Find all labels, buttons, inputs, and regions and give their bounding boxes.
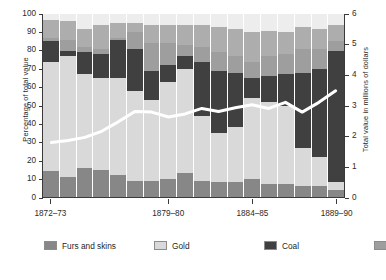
bar-segment: [160, 82, 176, 179]
y-left-tick-label: 30: [16, 138, 36, 146]
bar-segment: [43, 20, 59, 38]
stacked-bars: [43, 14, 344, 197]
bar-segment: [328, 190, 344, 197]
legend-item[interactable]: Furs and skins: [44, 241, 154, 251]
bar-segment: [177, 173, 193, 197]
bar-segment: [295, 14, 311, 27]
legend-label: Coal: [282, 241, 299, 251]
bar-segment: [312, 69, 328, 157]
bar-segment: [177, 69, 193, 173]
bar-segment: [177, 45, 193, 56]
bar-segment: [194, 25, 210, 47]
bar-segment: [144, 100, 160, 181]
y-left-tick-label: 100: [16, 10, 36, 18]
bar-segment: [261, 31, 277, 57]
bar-segment: [228, 14, 244, 29]
bar-segment: [144, 14, 160, 25]
x-tick-mark: [336, 199, 337, 204]
bar-segment: [228, 56, 244, 72]
bar-segment: [160, 179, 176, 197]
y-right-tick-mark: [345, 136, 349, 137]
bar-column: [295, 14, 312, 197]
bar-column: [328, 14, 344, 197]
bar-column: [110, 14, 127, 197]
bar-segment: [110, 78, 126, 175]
legend-item[interactable]: Coal: [264, 241, 374, 251]
bar-segment: [194, 47, 210, 62]
bar-segment: [295, 27, 311, 49]
bar-segment: [328, 41, 344, 50]
bar-segment: [261, 184, 277, 197]
bar-column: [244, 14, 261, 197]
bar-segment: [43, 41, 59, 61]
bar-segment: [110, 14, 126, 23]
y-right-tick-mark: [345, 14, 349, 15]
legend-item[interactable]: Salmon: [374, 241, 386, 251]
legend-swatch-icon: [264, 241, 277, 250]
bar-segment: [60, 21, 76, 39]
bar-segment: [144, 25, 160, 43]
y-left-tick-label: 50: [16, 102, 36, 110]
bar-segment: [93, 170, 109, 197]
bar-segment: [177, 14, 193, 25]
bar-segment: [278, 184, 294, 197]
y-right-tick-label: 1: [352, 163, 372, 171]
y-right-tick-label: 6: [352, 10, 372, 18]
bar-segment: [328, 25, 344, 41]
bar-segment: [60, 56, 76, 177]
y-right-tick-label: 4: [352, 71, 372, 79]
bar-segment: [144, 43, 160, 70]
bar-segment: [60, 40, 76, 51]
y-axis-right-title: Total value in millions of dollars: [361, 30, 370, 170]
bar-segment: [211, 52, 227, 70]
bar-segment: [228, 73, 244, 128]
bar-column: [211, 14, 228, 197]
bar-segment: [244, 78, 260, 98]
legend-swatch-icon: [44, 241, 57, 250]
bar-segment: [244, 62, 260, 78]
bar-segment: [127, 181, 143, 197]
bar-segment: [278, 32, 294, 54]
x-tick-label: 1879–80: [152, 209, 184, 218]
bar-segment: [211, 133, 227, 182]
bar-segment: [110, 40, 126, 78]
y-left-tick-label: 80: [16, 46, 36, 54]
bar-segment: [160, 43, 176, 65]
bar-segment: [160, 14, 176, 25]
bar-column: [194, 14, 211, 197]
bar-segment: [144, 181, 160, 197]
bar-segment: [77, 14, 93, 29]
bar-segment: [312, 49, 328, 69]
bar-segment: [261, 56, 277, 76]
bar-segment: [127, 32, 143, 48]
y-left-tick-label: 70: [16, 65, 36, 73]
bar-column: [93, 14, 110, 197]
bar-segment: [211, 71, 227, 133]
bar-segment: [295, 49, 311, 73]
bar-segment: [261, 14, 277, 30]
bar-segment: [244, 98, 260, 179]
legend-label: Furs and skins: [62, 241, 116, 251]
bar-segment: [127, 23, 143, 32]
bar-segment: [110, 23, 126, 38]
x-tick-mark: [252, 199, 253, 204]
bar-segment: [278, 106, 294, 185]
bar-segment: [93, 78, 109, 170]
legend-swatch-icon: [154, 241, 167, 250]
y-right-tick-label: 2: [352, 132, 372, 140]
bar-column: [261, 14, 278, 197]
bar-column: [43, 14, 60, 197]
bar-segment: [77, 168, 93, 197]
bar-segment: [60, 177, 76, 197]
legend-item[interactable]: Gold: [154, 241, 264, 251]
y-right-tick-mark: [345, 106, 349, 107]
bar-segment: [93, 54, 109, 78]
bar-segment: [160, 65, 176, 81]
bar-segment: [194, 116, 210, 180]
y-right-tick-mark: [345, 44, 349, 45]
bar-segment: [228, 182, 244, 197]
bar-segment: [93, 14, 109, 25]
bar-segment: [244, 32, 260, 61]
y-left-tick-label: 60: [16, 83, 36, 91]
bar-segment: [312, 14, 328, 29]
